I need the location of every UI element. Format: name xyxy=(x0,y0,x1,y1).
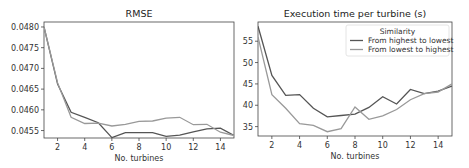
x-tick-label: 4 xyxy=(82,143,87,152)
y-tick-label: 0.0475 xyxy=(11,44,39,53)
x-tick-label: 6 xyxy=(109,143,114,152)
execution-time-chart: Execution time per turbine (s)2468101214… xyxy=(243,8,454,161)
x-tick-label: 14 xyxy=(215,143,225,152)
x-tick-label: 6 xyxy=(325,141,330,150)
y-tick-label: 0.0480 xyxy=(11,23,39,32)
x-tick-label: 14 xyxy=(433,141,443,150)
y-tick-label: 0.0455 xyxy=(11,127,39,136)
y-tick-label: 0.0465 xyxy=(11,85,39,94)
series-line-lowest-to-highest xyxy=(44,27,234,136)
chart-figure: RMSE24681012140.04550.04600.04650.04700.… xyxy=(0,0,469,168)
x-tick-label: 10 xyxy=(378,141,388,150)
legend-entry: From lowest to highest xyxy=(368,45,453,54)
y-tick-label: 50 xyxy=(243,59,253,68)
x-tick-label: 2 xyxy=(269,141,274,150)
y-tick-label: 55 xyxy=(243,37,253,46)
y-tick-label: 35 xyxy=(243,123,253,132)
legend: SimilarityFrom highest to lowestFrom low… xyxy=(346,25,453,56)
y-tick-label: 0.0460 xyxy=(11,106,39,115)
legend-entry: From highest to lowest xyxy=(368,36,453,45)
legend-title: Similarity xyxy=(380,27,416,36)
x-tick-label: 4 xyxy=(297,141,302,150)
x-tick-label: 8 xyxy=(352,141,357,150)
chart-title: RMSE xyxy=(126,8,153,19)
x-tick-label: 2 xyxy=(55,143,60,152)
y-tick-label: 40 xyxy=(243,101,253,110)
rmse-chart: RMSE24681012140.04550.04600.04650.04700.… xyxy=(11,8,234,163)
x-tick-label: 12 xyxy=(405,141,415,150)
x-tick-label: 10 xyxy=(161,143,171,152)
y-tick-label: 0.0470 xyxy=(11,64,39,73)
chart-title: Execution time per turbine (s) xyxy=(284,8,427,19)
x-axis-label: No. turbines xyxy=(331,152,380,161)
axes-frame xyxy=(44,22,234,138)
x-tick-label: 12 xyxy=(188,143,198,152)
x-axis-label: No. turbines xyxy=(115,154,164,163)
x-tick-label: 8 xyxy=(136,143,141,152)
y-tick-label: 45 xyxy=(243,80,253,89)
